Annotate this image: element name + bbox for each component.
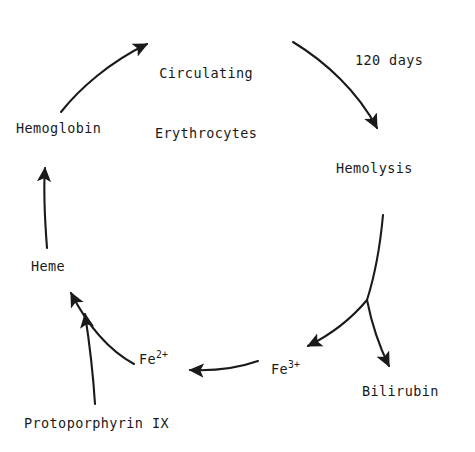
node-fe3-charge: 3+ xyxy=(288,359,300,370)
node-heme: Heme xyxy=(31,257,65,276)
node-bilirubin: Bilirubin xyxy=(362,382,439,401)
diagram-canvas: Circulating Erythrocytes Hemolysis Bilir… xyxy=(0,0,475,452)
node-protoporphyrin-ix: Protoporphyrin IX xyxy=(24,414,169,433)
edge-heme-to-hemoglobin xyxy=(44,168,47,248)
node-fe3: Fe3+ xyxy=(271,358,300,379)
edge-hemoglobin-to-erythrocytes xyxy=(61,44,147,112)
node-fe3-base: Fe xyxy=(271,361,288,377)
node-fe2-base: Fe xyxy=(139,351,156,367)
edge-hemolysis-stem xyxy=(367,215,383,300)
node-label-line1: Circulating xyxy=(155,63,257,83)
edge-fe2-to-heme xyxy=(71,293,134,364)
edge-fe3-to-fe2 xyxy=(190,361,258,370)
node-fe2: Fe2+ xyxy=(139,348,168,369)
node-hemolysis: Hemolysis xyxy=(336,159,413,178)
node-hemoglobin: Hemoglobin xyxy=(16,119,101,138)
edge-label-120-days: 120 days xyxy=(355,52,423,68)
node-circulating-erythrocytes: Circulating Erythrocytes xyxy=(155,22,257,184)
node-label-line2: Erythrocytes xyxy=(155,123,257,143)
edge-hemolysis-to-bilirubin xyxy=(367,300,389,366)
edge-hemolysis-to-fe3 xyxy=(308,300,367,346)
node-fe2-charge: 2+ xyxy=(156,349,168,360)
edge-protoporphyrin-to-heme xyxy=(85,314,95,404)
